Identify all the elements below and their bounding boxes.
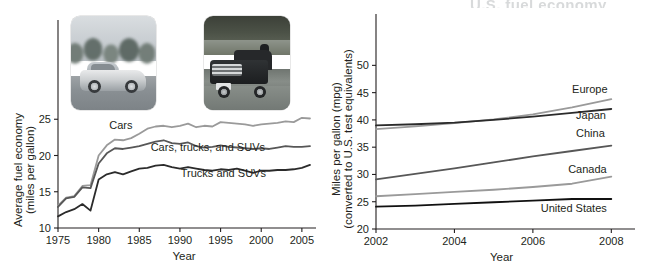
x-tick-label: 1990 xyxy=(168,234,192,246)
x-tick-label: 2006 xyxy=(521,235,545,247)
series-label-trucks-and-suvs: Trucks and SUVs xyxy=(181,167,267,179)
y-axis-title: (miles per gallon) xyxy=(24,126,36,214)
y-tick-label: 20 xyxy=(357,223,369,235)
x-tick-label: 1980 xyxy=(86,234,110,246)
x-axis-title: Year xyxy=(490,251,513,263)
series-label-china: China xyxy=(576,127,606,139)
y-tick-label: 25 xyxy=(39,113,51,125)
series-label-cars-trucks-and-suvs: Cars, trucks, and SUVs xyxy=(151,141,266,153)
sedan-front-wheel xyxy=(88,80,101,93)
x-tick-label: 1975 xyxy=(46,234,70,246)
y-tick-label: 20 xyxy=(39,150,51,162)
international-standards-line-chart: 202530354045502002200420062008YearMiles … xyxy=(322,0,653,278)
pickup-grille xyxy=(212,64,242,76)
series-label-united-states: United States xyxy=(541,202,608,214)
sedan-photo-trees xyxy=(71,33,156,67)
series-label-japan: Japan xyxy=(576,109,606,121)
series-label-cars: Cars xyxy=(109,119,133,131)
pickup-front-wheel xyxy=(218,86,230,98)
x-tick-label: 2002 xyxy=(364,235,388,247)
y-tick-label: 50 xyxy=(357,59,369,71)
x-axis-title: Year xyxy=(172,250,195,262)
y-tick-label: 25 xyxy=(357,196,369,208)
series-label-europe: Europe xyxy=(572,83,607,95)
y-axis-title: Miles per gallon (mpg) xyxy=(330,82,342,196)
y-tick-label: 35 xyxy=(357,141,369,153)
series-label-canada: Canada xyxy=(568,163,607,175)
axis-lines xyxy=(376,14,635,229)
x-tick-label: 2000 xyxy=(249,234,273,246)
x-tick-label: 2005 xyxy=(290,234,314,246)
series-line-canada xyxy=(376,177,611,197)
y-tick-label: 45 xyxy=(357,87,369,99)
x-tick-label: 1995 xyxy=(208,234,232,246)
chart-panel-us-fuel-economy: 101520251975198019851990199520002005Year… xyxy=(0,0,330,278)
y-axis-title: (converted to U.S. test equivalents) xyxy=(342,49,354,229)
sedan-rear-wheel xyxy=(125,80,138,93)
x-tick-label: 2004 xyxy=(442,235,466,247)
y-tick-label: 40 xyxy=(357,114,369,126)
figure-container: U.S. fuel economy 1015202519751980198519… xyxy=(0,0,653,278)
y-tick-label: 30 xyxy=(357,168,369,180)
y-axis-title: Average fuel economy xyxy=(12,113,24,227)
y-tick-label: 10 xyxy=(39,222,51,234)
photo-sedan xyxy=(71,16,156,110)
x-tick-label: 2008 xyxy=(599,235,623,247)
pickup-rear-wheel xyxy=(254,86,266,98)
x-tick-label: 1985 xyxy=(127,234,151,246)
y-tick-label: 15 xyxy=(39,186,51,198)
chart-panel-international-standards: 202530354045502002200420062008YearMiles … xyxy=(322,0,653,278)
photo-pickup xyxy=(204,16,290,110)
